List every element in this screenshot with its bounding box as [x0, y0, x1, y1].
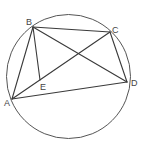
- segment-BD: [33, 27, 127, 82]
- cyclic-quadrilateral-diagram: A B C D E: [0, 0, 142, 146]
- label-E: E: [40, 82, 46, 92]
- segment-BE: [33, 27, 40, 80]
- label-A: A: [4, 98, 10, 108]
- label-D: D: [131, 78, 138, 88]
- label-C: C: [112, 25, 119, 35]
- label-B: B: [26, 17, 32, 27]
- segment-AC: [12, 32, 110, 99]
- segments: [12, 27, 127, 99]
- segment-BC: [33, 27, 110, 32]
- segment-DA: [12, 82, 127, 99]
- point-labels: A B C D E: [4, 17, 138, 108]
- segment-AB: [12, 27, 33, 99]
